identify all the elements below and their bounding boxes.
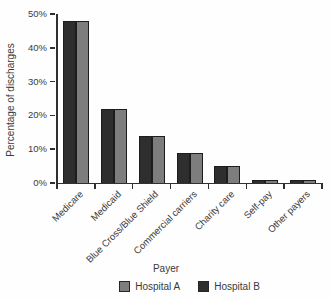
x-category-label-medicaid: Medicaid <box>89 189 123 223</box>
x-tick-3 <box>170 184 172 189</box>
y-tick-label-20: 20% <box>28 111 47 121</box>
bar-hospital-b-self-pay <box>252 180 265 183</box>
bar-hospital-b-medicaid <box>101 109 114 183</box>
x-tick-7 <box>321 184 323 189</box>
y-tick-label-10: 10% <box>28 144 47 154</box>
legend-item-hospital-a: Hospital A <box>119 281 180 292</box>
y-axis-title: Percentage of discharges <box>5 43 16 156</box>
bar-hospital-a-self-pay <box>265 180 278 183</box>
y-tick-label-50: 50% <box>28 9 47 19</box>
bar-hospital-b-other-payers <box>290 180 303 183</box>
x-tick-1 <box>94 184 96 189</box>
bar-hospital-a-commercial-carriers <box>190 153 203 183</box>
legend-swatch-hospital-a <box>119 281 130 292</box>
plot-area: 0%10%20%30%40%50%MedicareMedicaidBlue Cr… <box>57 14 322 183</box>
y-tick-50 <box>50 13 55 15</box>
bar-hospital-b-commercial-carriers <box>177 153 190 183</box>
legend-label-hospital-a: Hospital A <box>135 281 180 292</box>
bar-hospital-b-charity-care <box>214 166 227 183</box>
y-tick-0 <box>50 182 55 184</box>
bar-hospital-a-blue-cross-blue-shield <box>152 136 165 183</box>
x-tick-5 <box>246 184 248 189</box>
y-tick-10 <box>50 148 55 150</box>
bar-hospital-b-medicare <box>63 21 76 183</box>
payer-discharges-bar-chart: Percentage of discharges 0%10%20%30%40%5… <box>0 0 332 299</box>
x-category-label-medicare: Medicare <box>50 189 84 223</box>
y-tick-40 <box>50 47 55 49</box>
x-tick-6 <box>283 184 285 189</box>
y-tick-label-40: 40% <box>28 43 47 53</box>
legend-item-hospital-b: Hospital B <box>198 281 260 292</box>
x-category-label-charity-care: Charity care <box>193 189 236 232</box>
bar-hospital-a-other-payers <box>303 180 316 183</box>
y-tick-label-0: 0% <box>33 178 47 188</box>
x-category-label-self-pay: Self-pay <box>243 189 274 220</box>
y-tick-label-30: 30% <box>28 77 47 87</box>
x-tick-0 <box>56 184 58 189</box>
y-tick-30 <box>50 81 55 83</box>
bar-hospital-b-blue-cross-blue-shield <box>139 136 152 183</box>
y-tick-20 <box>50 115 55 117</box>
x-tick-4 <box>208 184 210 189</box>
legend-label-hospital-b: Hospital B <box>214 281 260 292</box>
x-tick-2 <box>132 184 134 189</box>
y-axis-line <box>56 14 58 184</box>
bar-hospital-a-medicaid <box>114 109 127 183</box>
x-category-label-blue-cross-blue-shield: Blue Cross/Blue Shield <box>85 189 160 264</box>
legend-swatch-hospital-b <box>198 281 209 292</box>
legend: Hospital AHospital B <box>57 281 322 292</box>
x-axis-title: Payer <box>0 263 332 274</box>
bar-hospital-a-medicare <box>76 21 89 183</box>
bar-hospital-a-charity-care <box>227 166 240 183</box>
